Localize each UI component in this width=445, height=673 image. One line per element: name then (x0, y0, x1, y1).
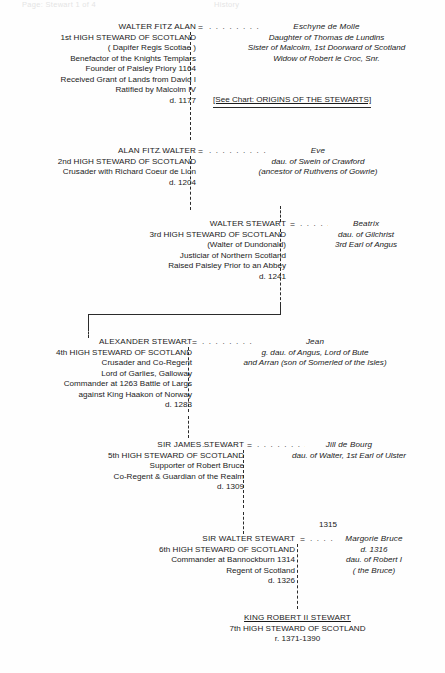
gen1-leader-dots-left: . . . . . . . . . . . . . . (140, 22, 194, 33)
connector-gen2-gen3 (190, 156, 191, 210)
gen3-marriage-symbol: = (290, 219, 295, 230)
page-header-fragment: Page: Stewart 1 of 4History (22, 0, 322, 11)
gen4-wife-line-1: g. dau. of Angus, Lord of Bute (202, 348, 428, 359)
gen4-husband-line-3: Lord of Garlies, Galloway (0, 369, 192, 380)
gen4-wife-line-2: and Arran (son of Somerled of the Isles) (202, 358, 428, 369)
gen5-husband-line-2: Supporter of Robert Bruce (60, 461, 244, 472)
gen2-wife-line-2: (ancestor of Ruthvens of Gowrie) (208, 167, 428, 178)
connector-gen5-entry (188, 416, 189, 438)
gen2-wife-line-1: dau. of Swein of Crawford (208, 157, 428, 168)
gen6-wife-name: Margorie Bruce (310, 534, 438, 545)
see-chart-label: [See Chart: ORIGINS OF THE STEWARTS] (213, 95, 371, 104)
gen3-husband-line-1: 3rd HIGH STEWARD OF SCOTLAND (110, 230, 286, 241)
gen3-husband-line-3: Justiciar of Northern Scotland (110, 251, 286, 262)
see-chart-reference[interactable]: [See Chart: ORIGINS OF THE STEWARTS] (213, 95, 371, 108)
page-header-right: History (214, 0, 239, 9)
connector-gen5-gen6 (243, 450, 244, 508)
gen1-husband-line-3: Benefactor of the Knights Templars (20, 54, 196, 65)
gen4-husband-line-5: against King Haakon of Norway (0, 390, 192, 401)
gen5-marriage-symbol: = (247, 440, 252, 451)
gen1-wife-line-3: Widow of Robert le Croc, Snr. (208, 54, 445, 65)
gen3-wife-line-2: 3rd Earl of Angus (300, 240, 432, 251)
gen3-husband-line-5: d. 1241 (110, 272, 286, 283)
gen3-husband-line-2: (Walter of Dundonald) (110, 240, 286, 251)
page-header-left: Page: Stewart 1 of 4 (22, 0, 96, 9)
connector-gen3-bracket-horizontal (88, 314, 281, 315)
gen5-wife: Jill de Bourg dau. of Walter, 1st Earl o… (256, 440, 442, 461)
gen2-leader-dots-left: . . . . . . . . . . . (152, 146, 194, 157)
gen4-husband-line-1: 4th HIGH STEWARD OF SCOTLAND (0, 348, 192, 359)
connector-gen6-gen7 (297, 544, 298, 609)
gen1-marriage-symbol: = (198, 22, 203, 33)
gen1-wife-line-1: Daughter of Thomas de Lundins (208, 33, 445, 44)
gen1-wife-line-2: Sister of Malcolm, 1st Doorward of Scotl… (208, 43, 445, 54)
gen5-husband-line-4: d. 1309 (60, 482, 244, 493)
gen1-husband-line-1: 1st HIGH STEWARD OF SCOTLAND (20, 33, 196, 44)
gen6-leader-dots-left: . . . . . . . . (262, 534, 294, 545)
gen2-husband-line-2: Crusader with Richard Coeur de Lion (20, 167, 196, 178)
connector-gen1-gen2 (190, 32, 191, 140)
gen5-husband-line-1: 5th HIGH STEWARD OF SCOTLAND (60, 451, 244, 462)
connector-gen3-bracket-left (88, 314, 89, 328)
connector-gen4-gen5 (188, 347, 189, 412)
gen6-husband-line-3: Regent of Scotland (110, 566, 295, 577)
connector-gen6-entry (243, 512, 244, 534)
gen5-wife-line-1: dau. of Walter, 1st Earl of Ulster (256, 451, 442, 462)
gen4-husband-line-6: d. 1283 (0, 400, 192, 411)
gen7-husband: KING ROBERT II STEWART 7th HIGH STEWARD … (190, 613, 405, 645)
gen1-husband: WALTER FITZ ALAN 1st HIGH STEWARD OF SCO… (20, 22, 196, 106)
gen4-wife: Jean g. dau. of Angus, Lord of Bute and … (202, 337, 428, 369)
gen2-marriage-symbol: = (198, 146, 203, 157)
gen5-husband-line-3: Co-Regent & Guardian of the Realm (60, 472, 244, 483)
gen1-wife: Eschyne de Molle Daughter of Thomas de L… (208, 22, 445, 64)
gen5-leader-dots-left: . . . . . . . . . . (202, 440, 242, 451)
gen6-marriage-symbol: = (300, 534, 305, 545)
gen2-husband-line-3: d. 1204 (20, 178, 196, 189)
gen4-leader-dots-left: . . . . . . . . . (152, 337, 188, 348)
gen6-husband-line-1: 6th HIGH STEWARD OF SCOTLAND (110, 545, 295, 556)
gen2-husband-line-1: 2nd HIGH STEWARD OF SCOTLAND (20, 157, 196, 168)
gen6-marriage-year: 1315 (319, 520, 337, 531)
gen6-wife: Margorie Bruce d. 1316 dau. of Robert I … (310, 534, 438, 576)
genealogy-chart: Page: Stewart 1 of 4History WALTER FITZ … (0, 0, 445, 673)
gen3-leader-dots-left: . . . . . . . . . . . . (242, 219, 286, 230)
gen1-husband-line-4: Founder of Paisley Priory 1164 (20, 64, 196, 75)
gen6-wife-line-2: dau. of Robert I (310, 555, 438, 566)
gen4-wife-name: Jean (202, 337, 428, 348)
gen7-husband-line-1: 7th HIGH STEWARD OF SCOTLAND (190, 624, 405, 635)
gen3-wife-name: Beatrix (300, 219, 432, 230)
gen1-wife-name: Eschyne de Molle (208, 22, 445, 33)
gen4-husband: ALEXANDER STEWART 4th HIGH STEWARD OF SC… (0, 337, 192, 411)
gen1-husband-line-6: Ratified by Malcolm IV (20, 85, 196, 96)
connector-gen3-down (280, 229, 281, 305)
see-chart-underline (213, 107, 371, 108)
gen7-husband-name: KING ROBERT II STEWART (190, 613, 405, 624)
gen6-husband-line-4: d. 1326 (110, 576, 295, 587)
gen3-wife: Beatrix dau. of Gilchrist 3rd Earl of An… (300, 219, 432, 251)
gen1-husband-line-7: d. 1177 (20, 96, 196, 107)
gen4-marriage-symbol: = (192, 337, 197, 348)
gen2-wife-name: Eve (208, 146, 428, 157)
gen6-wife-line-3: ( the Bruce) (310, 566, 438, 577)
gen7-husband-line-2: r. 1371-1390 (190, 634, 405, 645)
gen6-wife-line-1: d. 1316 (310, 545, 438, 556)
gen1-husband-line-2: ( Dapifer Regis Scotiae ) (20, 43, 196, 54)
gen5-wife-name: Jill de Bourg (256, 440, 442, 451)
gen4-husband-line-4: Commander at 1263 Battle of Largs (0, 379, 192, 390)
gen4-husband-line-2: Crusader and Co-Regent (0, 358, 192, 369)
gen3-wife-line-1: dau. of Gilchrist (300, 230, 432, 241)
gen6-husband-line-2: Commander at Bannockburn 1314 (110, 555, 295, 566)
gen1-husband-line-5: Received Grant of Lands from David I (20, 75, 196, 86)
gen3-husband-line-4: Raised Paisley Prior to an Abbey (110, 261, 286, 272)
gen2-wife: Eve dau. of Swein of Crawford (ancestor … (208, 146, 428, 178)
